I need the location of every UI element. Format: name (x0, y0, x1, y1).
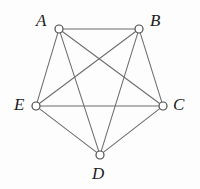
graph-edge-be (40, 32, 136, 104)
graph-edge-ae (37, 33, 57, 101)
edge-layer (37, 29, 161, 152)
graph-vertex-a (55, 25, 63, 33)
graph-figure: ABCDE (0, 0, 200, 189)
graph-edge-ad (60, 33, 98, 150)
vertex-layer (32, 25, 167, 159)
graph-vertex-d (96, 151, 104, 159)
vertex-label-e: E (14, 96, 24, 113)
graph-edge-de (40, 109, 97, 152)
graph-canvas (0, 0, 200, 189)
graph-vertex-c (159, 102, 167, 110)
vertex-label-c: C (173, 96, 184, 113)
graph-edge-ac (63, 32, 160, 104)
vertex-label-a: A (36, 12, 46, 29)
graph-edge-bd (101, 33, 137, 150)
vertex-label-d: D (92, 165, 104, 182)
graph-vertex-b (135, 25, 143, 33)
graph-vertex-e (32, 102, 40, 110)
vertex-label-b: B (150, 12, 160, 29)
